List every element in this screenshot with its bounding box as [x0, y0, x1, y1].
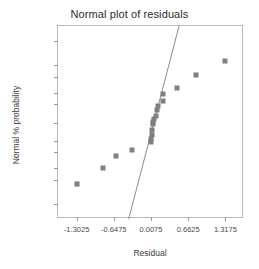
y-tick-mark — [54, 180, 58, 181]
y-tick-mark — [54, 141, 58, 142]
x-axis-title: Residual — [57, 248, 243, 258]
y-tick-mark — [54, 104, 58, 105]
data-point — [222, 59, 227, 64]
data-point — [161, 92, 166, 97]
data-point — [153, 114, 158, 119]
data-point — [174, 85, 179, 90]
data-point — [74, 181, 79, 186]
normal-probability-plot-figure: Normal plot of residuals Normal % probab… — [0, 0, 259, 269]
data-point — [149, 133, 154, 138]
y-tick-mark — [54, 123, 58, 124]
x-tick-mark — [77, 217, 78, 221]
y-tick-mark — [54, 41, 58, 42]
y-tick-mark — [54, 93, 58, 94]
normal-reference-line — [128, 26, 184, 219]
y-tick-mark — [54, 168, 58, 169]
y-axis-title: Normal % probability — [11, 60, 21, 190]
data-point — [194, 73, 199, 78]
data-point — [150, 127, 155, 132]
data-point — [113, 154, 118, 159]
x-tick-mark — [114, 217, 115, 221]
plot-area: 15102030507080909599 -1.3025-0.64750.007… — [57, 25, 243, 218]
data-point — [100, 165, 105, 170]
x-tick-label: 1.3175 — [202, 225, 248, 234]
x-tick-mark — [151, 217, 152, 221]
data-point — [129, 147, 134, 152]
x-tick-mark — [225, 217, 226, 221]
y-tick-mark — [54, 152, 58, 153]
data-point — [160, 98, 165, 103]
y-tick-mark — [54, 77, 58, 78]
y-tick-mark — [54, 65, 58, 66]
y-tick-mark — [54, 204, 58, 205]
x-tick-mark — [188, 217, 189, 221]
data-point — [155, 104, 160, 109]
chart-title: Normal plot of residuals — [0, 8, 259, 20]
